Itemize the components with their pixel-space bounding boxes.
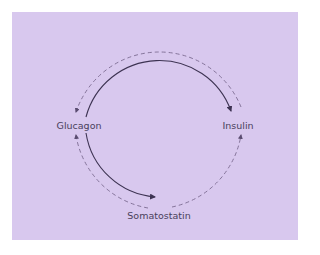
edge-glucagon-to-insulin: [86, 61, 231, 117]
edge-somatostatin-to-glucagon: [76, 135, 148, 208]
node-somatostatin: Somatostatin: [127, 210, 190, 221]
node-insulin: Insulin: [222, 120, 253, 131]
edge-somatostatin-to-insulin: [172, 135, 241, 207]
node-glucagon: Glucagon: [57, 120, 102, 131]
edge-glucagon-to-somatostatin: [86, 133, 155, 197]
